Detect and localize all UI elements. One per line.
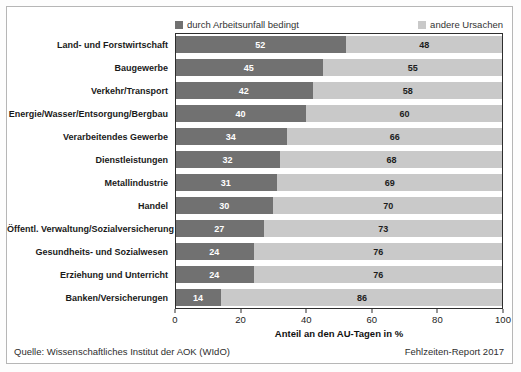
value-label-other: 60 bbox=[400, 109, 410, 119]
bar-segment-other: 86 bbox=[221, 289, 503, 306]
bar-track: 30 70 bbox=[175, 197, 503, 214]
category-label: Handel bbox=[7, 201, 175, 211]
x-tick-label: 100 bbox=[495, 314, 511, 325]
value-label-other: 68 bbox=[386, 155, 396, 165]
bar-row: Verarbeitendes Gewerbe 34 66 bbox=[7, 125, 503, 148]
chart-figure: durch Arbeitsunfall bedingt andere Ursac… bbox=[6, 6, 513, 364]
bar-segment-accident: 24 bbox=[175, 243, 254, 260]
bar-segment-other: 66 bbox=[287, 128, 503, 145]
value-label-accident: 34 bbox=[226, 132, 236, 142]
bar-segment-accident: 45 bbox=[175, 59, 323, 76]
bar-segment-other: 73 bbox=[264, 220, 503, 237]
value-label-other: 73 bbox=[378, 224, 388, 234]
x-axis-title: Anteil an den AU-Tagen in % bbox=[175, 328, 503, 339]
bar-segment-accident: 14 bbox=[175, 289, 221, 306]
bar-segment-other: 68 bbox=[280, 151, 503, 168]
bar-segment-other: 69 bbox=[277, 174, 503, 191]
bar-track: 42 58 bbox=[175, 82, 503, 99]
bar-track: 14 86 bbox=[175, 289, 503, 306]
value-label-accident: 52 bbox=[255, 40, 265, 50]
category-label: Land- und Forstwirtschaft bbox=[7, 40, 175, 50]
bar-track: 31 69 bbox=[175, 174, 503, 191]
bar-segment-other: 55 bbox=[323, 59, 503, 76]
category-label: Gesundheits- und Sozialwesen bbox=[7, 247, 175, 257]
bar-rows: Land- und Forstwirtschaft 52 48 Baugewer… bbox=[7, 33, 503, 309]
bar-segment-accident: 31 bbox=[175, 174, 277, 191]
source-text: Quelle: Wissenschaftliches Institut der … bbox=[14, 346, 230, 357]
value-label-accident: 45 bbox=[244, 63, 254, 73]
bar-row: Land- und Forstwirtschaft 52 48 bbox=[7, 33, 503, 56]
value-label-other: 66 bbox=[390, 132, 400, 142]
x-tick-mark bbox=[175, 309, 176, 313]
value-label-other: 70 bbox=[383, 201, 393, 211]
bar-track: 45 55 bbox=[175, 59, 503, 76]
category-label: Energie/Wasser/Entsorgung/Bergbau bbox=[7, 109, 175, 119]
bar-row: Öffentl. Verwaltung/Sozialversicherung 2… bbox=[7, 217, 503, 240]
x-tick-mark bbox=[306, 309, 307, 313]
bar-track: 27 73 bbox=[175, 220, 503, 237]
value-label-other: 58 bbox=[403, 86, 413, 96]
bar-segment-accident: 42 bbox=[175, 82, 313, 99]
report-text: Fehlzeiten-Report 2017 bbox=[405, 346, 504, 357]
value-label-accident: 40 bbox=[236, 109, 246, 119]
bar-row: Handel 30 70 bbox=[7, 194, 503, 217]
bar-segment-accident: 34 bbox=[175, 128, 287, 145]
x-tick-label: 20 bbox=[235, 314, 246, 325]
bar-track: 52 48 bbox=[175, 36, 503, 53]
legend-swatch-other-icon bbox=[418, 21, 426, 29]
bar-track: 24 76 bbox=[175, 243, 503, 260]
value-label-accident: 32 bbox=[222, 155, 232, 165]
bar-segment-accident: 32 bbox=[175, 151, 280, 168]
value-label-accident: 24 bbox=[209, 247, 219, 257]
value-label-other: 55 bbox=[408, 63, 418, 73]
x-tick-mark bbox=[240, 309, 241, 313]
bar-track: 24 76 bbox=[175, 266, 503, 283]
bar-segment-other: 58 bbox=[313, 82, 503, 99]
value-label-accident: 24 bbox=[209, 270, 219, 280]
bar-segment-other: 76 bbox=[254, 266, 503, 283]
bar-segment-other: 70 bbox=[273, 197, 503, 214]
bar-row: Baugewerbe 45 55 bbox=[7, 56, 503, 79]
category-label: Dienstleistungen bbox=[7, 155, 175, 165]
value-label-other: 76 bbox=[373, 270, 383, 280]
bar-segment-accident: 30 bbox=[175, 197, 273, 214]
legend: durch Arbeitsunfall bedingt andere Ursac… bbox=[175, 19, 503, 30]
bar-segment-other: 76 bbox=[254, 243, 503, 260]
x-tick-mark bbox=[503, 309, 504, 313]
bar-segment-other: 60 bbox=[306, 105, 503, 122]
x-tick-mark bbox=[437, 309, 438, 313]
category-label: Banken/Versicherungen bbox=[7, 293, 175, 303]
value-label-other: 86 bbox=[357, 293, 367, 303]
category-label: Metallindustrie bbox=[7, 178, 175, 188]
category-label: Erziehung und Unterricht bbox=[7, 270, 175, 280]
bar-row: Verkehr/Transport 42 58 bbox=[7, 79, 503, 102]
value-label-other: 69 bbox=[385, 178, 395, 188]
bar-segment-accident: 40 bbox=[175, 105, 306, 122]
bar-row: Metallindustrie 31 69 bbox=[7, 171, 503, 194]
bar-row: Gesundheits- und Sozialwesen 24 76 bbox=[7, 240, 503, 263]
x-tick-mark bbox=[371, 309, 372, 313]
x-tick-label: 40 bbox=[301, 314, 312, 325]
category-label: Baugewerbe bbox=[7, 63, 175, 73]
bar-segment-accident: 24 bbox=[175, 266, 254, 283]
category-label: Verarbeitendes Gewerbe bbox=[7, 132, 175, 142]
legend-item-other: andere Ursachen bbox=[418, 19, 503, 30]
bar-track: 32 68 bbox=[175, 151, 503, 168]
legend-item-accident: durch Arbeitsunfall bedingt bbox=[175, 19, 299, 30]
value-label-accident: 30 bbox=[219, 201, 229, 211]
bar-segment-accident: 27 bbox=[175, 220, 264, 237]
legend-label-other: andere Ursachen bbox=[430, 19, 503, 30]
bar-row: Erziehung und Unterricht 24 76 bbox=[7, 263, 503, 286]
value-label-other: 48 bbox=[419, 40, 429, 50]
legend-label-accident: durch Arbeitsunfall bedingt bbox=[187, 19, 299, 30]
x-tick-label: 80 bbox=[432, 314, 443, 325]
value-label-accident: 31 bbox=[221, 178, 231, 188]
value-label-accident: 14 bbox=[193, 293, 203, 303]
category-label: Verkehr/Transport bbox=[7, 86, 175, 96]
x-tick-label: 0 bbox=[172, 314, 177, 325]
value-label-accident: 27 bbox=[214, 224, 224, 234]
footer: Quelle: Wissenschaftliches Institut der … bbox=[14, 346, 504, 357]
category-label: Öffentl. Verwaltung/Sozialversicherung bbox=[7, 224, 175, 234]
value-label-other: 76 bbox=[373, 247, 383, 257]
bar-track: 40 60 bbox=[175, 105, 503, 122]
